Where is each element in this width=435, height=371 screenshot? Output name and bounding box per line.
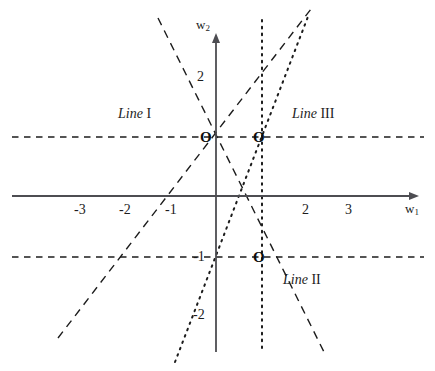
y-tick-minus-1: -1 xyxy=(193,250,205,264)
x-axis-label: w1 xyxy=(405,202,419,217)
x-tick-minus-1: -1 xyxy=(165,203,177,217)
point-marker-1-1: O xyxy=(253,130,265,145)
line-label-1: Line I xyxy=(118,107,151,121)
line-label-3: Line III xyxy=(292,107,334,121)
line-1-plot xyxy=(158,18,325,354)
point-marker-1-minus-1: O xyxy=(253,250,265,265)
x-tick-minus-3: -3 xyxy=(74,203,86,217)
line-label-2: Line II xyxy=(283,273,321,287)
line-plot-figure: w2 w1 -3 -2 -1 2 3 2 -1 -2 Line I Line I… xyxy=(0,0,435,371)
plot-canvas xyxy=(0,0,435,371)
x-tick-3: 3 xyxy=(345,203,352,217)
point-marker-0-1: O xyxy=(200,130,212,145)
y-axis-label: w2 xyxy=(196,18,210,33)
y-tick-minus-2: -2 xyxy=(193,308,205,322)
line-2-plot xyxy=(58,9,311,338)
y-tick-2: 2 xyxy=(197,70,204,84)
x-tick-minus-2: -2 xyxy=(119,203,131,217)
x-tick-2: 2 xyxy=(302,203,309,217)
